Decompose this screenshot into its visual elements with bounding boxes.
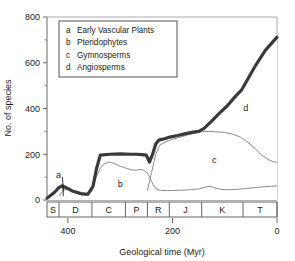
y-axis-tick-label: 400: [25, 104, 40, 114]
y-axis-tick-label: 600: [25, 58, 40, 68]
species-vs-geological-time-chart: abcd SDCPRJKT 02004006008004002000 aEarl…: [0, 0, 295, 261]
period-label-R: R: [155, 205, 162, 215]
y-axis-tick-label: 200: [25, 150, 40, 160]
chart-root: abcd SDCPRJKT 02004006008004002000 aEarl…: [0, 0, 295, 261]
curve-label-a: a: [56, 170, 61, 180]
y-axis-title: No. of species: [3, 79, 13, 137]
legend-label-b: Pteridophytes: [77, 38, 127, 47]
period-label-D: D: [72, 205, 79, 215]
curve-label-b: b: [118, 179, 123, 189]
x-axis-tick-label: 0: [274, 226, 279, 236]
period-label-C: C: [105, 205, 112, 215]
y-axis-tick-label: 0: [35, 195, 40, 205]
legend-label-d: Angiosperms: [77, 63, 125, 72]
legend-key-d: d: [66, 63, 71, 72]
curve-label-d: d: [243, 103, 248, 113]
x-axis-tick-label: 200: [165, 226, 180, 236]
period-label-S: S: [50, 205, 56, 215]
x-axis-title: Geological time (Myr): [119, 247, 205, 257]
curve-label-c: c: [212, 155, 217, 165]
legend-label-c: Gymnosperms: [77, 51, 130, 60]
legend-key-a: a: [66, 26, 71, 35]
period-label-J: J: [183, 205, 188, 215]
legend-label-a: Early Vascular Plants: [77, 26, 154, 35]
x-axis-tick-label: 400: [60, 226, 75, 236]
legend-box: aEarly Vascular PlantsbPteridophytescGym…: [59, 21, 177, 77]
period-label-K: K: [219, 205, 225, 215]
legend-key-c: c: [66, 51, 70, 60]
y-axis-tick-label: 800: [25, 12, 40, 22]
legend-key-b: b: [66, 38, 71, 47]
period-label-P: P: [133, 205, 139, 215]
period-label-T: T: [257, 205, 263, 215]
